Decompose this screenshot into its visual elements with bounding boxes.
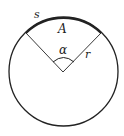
left-radius xyxy=(26,33,63,72)
right-radius xyxy=(63,33,101,72)
angle-label: α xyxy=(59,43,67,57)
circle-sector-diagram: s A α r xyxy=(0,0,124,136)
area-label: A xyxy=(57,22,67,36)
angle-marker xyxy=(53,58,74,63)
radius-label: r xyxy=(85,48,91,61)
arc-length-label: s xyxy=(34,8,40,21)
